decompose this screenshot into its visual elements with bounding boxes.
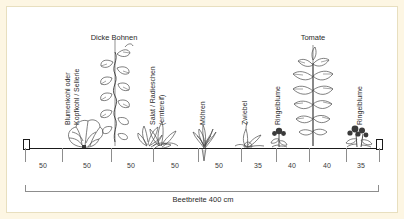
plant-onion-icon [233,7,267,148]
plant-tomato-plant-icon [289,7,337,148]
label-line-1: Salat / Radieschen [149,66,156,125]
spacing-value: 50 [39,162,47,169]
label-moehren: Möhren [199,75,208,125]
spacing-value: 50 [215,162,223,169]
total-width-bracket [25,185,379,192]
label-tomate: Tomate [301,33,326,42]
label-dicke-bohnen: Dicke Bohnen [91,33,138,42]
diagram-panel: 50 50 50 50 50 35 40 40 35 Beetbreite 40… [6,6,398,213]
ground-line [25,148,379,149]
spacing-value: 35 [357,162,365,169]
spacing-value: 50 [127,162,135,169]
label-line-2: (erntereif) [158,95,165,125]
spacing-value: 40 [323,162,331,169]
diagram-outer-border: 50 50 50 50 50 35 40 40 35 Beetbreite 40… [0,0,404,219]
label-ringelblume-1: Ringelblume [274,65,283,125]
plant-bean-vine-icon [95,7,135,148]
label-blumenkohl: Blumenkohl oder Kopfkohl / Sellerie [64,21,82,125]
total-width-label: Beetbreite 400 cm [7,195,399,204]
spacing-value: 50 [83,162,91,169]
spacing-value: 35 [254,162,262,169]
label-salat: Salat / Radieschen (erntereif) [149,27,167,125]
label-line-1: Blumenkohl oder [64,72,71,125]
label-line-2: Kopfkohl / Sellerie [73,69,80,125]
label-zwiebel: Zwiebel [241,83,250,125]
spacing-value: 40 [288,162,296,169]
label-ringelblume-2: Ringelblume [356,65,365,125]
spacing-value: 50 [171,162,179,169]
